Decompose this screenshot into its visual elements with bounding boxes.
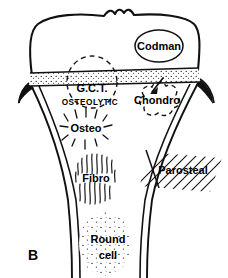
parosteal-label: Parosteal — [158, 164, 208, 176]
fibro-label: Fibro — [82, 172, 110, 184]
gct-label: G.C.T. — [76, 82, 107, 94]
bone-tumor-diagram: Codman G.C.T. OSTEOLYTIC Chondro Os — [0, 0, 228, 278]
osteolytic-label: OSTEOLYTIC — [62, 98, 119, 107]
round-cell-label-line2: cell — [99, 249, 117, 261]
panel-label: B — [28, 247, 38, 263]
codman-label: Codman — [137, 40, 181, 52]
round-cell-label-line1: Round — [91, 233, 126, 245]
chondro-label: Chondro — [134, 94, 180, 106]
osteo-label: Osteo — [70, 122, 101, 134]
